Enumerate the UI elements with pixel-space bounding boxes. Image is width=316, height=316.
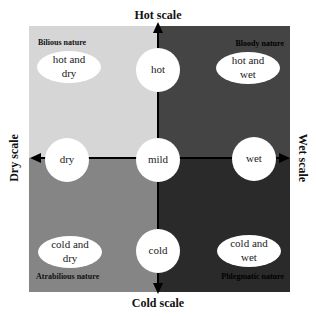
- arrow-down-icon: [153, 283, 163, 294]
- ellipse-line: wet: [241, 251, 257, 263]
- bloody-nature-label: Bloody nature: [235, 39, 284, 48]
- ellipse-line: wet: [240, 68, 256, 80]
- ellipse-line: dry: [62, 67, 77, 79]
- hot-node: hot: [136, 48, 180, 92]
- cold-and-dry-ellipse: cold anddry: [38, 236, 102, 268]
- cold-and-wet-ellipse: cold andwet: [217, 235, 281, 267]
- hot-scale-label: Hot scale: [0, 8, 316, 23]
- cold-node: cold: [136, 229, 180, 273]
- dry-node: dry: [45, 138, 89, 182]
- wet-scale-label: Wet scale: [295, 134, 310, 182]
- hot-and-wet-ellipse: hot andwet: [216, 52, 280, 84]
- dry-scale-label: Dry scale: [7, 134, 22, 182]
- arrow-up-icon: [153, 22, 163, 33]
- ellipse-line: cold and: [51, 238, 89, 250]
- bilious-nature-label: Bilious nature: [38, 38, 86, 47]
- arrow-left-icon: [30, 153, 41, 163]
- wet-node: wet: [232, 137, 276, 181]
- atrabilious-nature-label: Atrabilious nature: [36, 272, 99, 281]
- phlegmatic-nature-label: Phlegmatic nature: [221, 272, 284, 281]
- ellipse-line: hot and: [53, 53, 86, 65]
- mild-node: mild: [136, 138, 180, 182]
- cold-scale-label: Cold scale: [0, 296, 316, 311]
- ellipse-line: cold and: [230, 237, 268, 249]
- ellipse-line: dry: [63, 252, 78, 264]
- arrow-right-icon: [279, 153, 290, 163]
- hot-and-dry-ellipse: hot anddry: [37, 51, 101, 83]
- ellipse-line: hot and: [232, 54, 265, 66]
